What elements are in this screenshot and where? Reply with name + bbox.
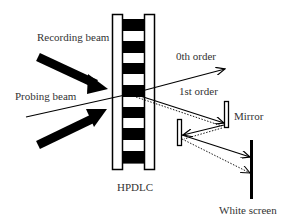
first-order-label: 1st order (179, 85, 218, 97)
recording-beam-lower (38, 109, 107, 145)
hpdlc-label: HPDLC (117, 181, 153, 193)
mirror-label: Mirror (234, 110, 264, 122)
hpdlc-grating (113, 15, 155, 170)
mirror-2 (178, 120, 182, 146)
white-screen-label: White screen (219, 204, 277, 216)
probing-beam-label: Probing beam (15, 90, 77, 102)
recording-beam-upper (38, 57, 108, 94)
mirror-1 (225, 102, 229, 128)
screen-beam (182, 135, 250, 173)
recording-beam-label: Recording beam (37, 31, 110, 43)
zeroth-order-label: 0th order (176, 50, 216, 62)
optical-diagram: Recording beam Probing beam 0th order 1s… (0, 0, 289, 222)
